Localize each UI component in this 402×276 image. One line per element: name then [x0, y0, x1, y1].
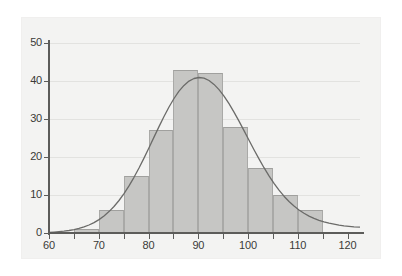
y-tick-label-10-wrap: 10 [22, 189, 42, 200]
x-tick-label-60: 60 [34, 240, 64, 251]
normal-density-curve [49, 35, 360, 237]
y-tick-label-30: 30 [30, 113, 42, 124]
x-tick-label-100: 100 [233, 240, 263, 251]
x-tick-label-120: 120 [333, 240, 363, 251]
y-tick-label-40-wrap: 40 [22, 75, 42, 86]
x-tick-mark-75 [124, 234, 125, 239]
x-tick-mark-115 [323, 234, 324, 239]
y-tick-label-50: 50 [30, 37, 42, 48]
y-tick-label-0-wrap: 0 [22, 227, 42, 238]
histogram-figure: 50 40 30 20 10 0 [0, 0, 402, 276]
y-axis-line [48, 40, 50, 235]
y-tick-label-0: 0 [36, 227, 42, 238]
x-tick-mark-65 [74, 234, 75, 239]
y-tick-label-40: 40 [30, 75, 42, 86]
x-axis-line [48, 232, 364, 234]
y-tick-label-20: 20 [30, 151, 42, 162]
x-tick-label-110: 110 [283, 240, 313, 251]
y-tick-label-20-wrap: 20 [22, 151, 42, 162]
x-tick-mark-85 [173, 234, 174, 239]
x-tick-label-70: 70 [84, 240, 114, 251]
y-tick-label-10: 10 [30, 189, 42, 200]
x-tick-label-90: 90 [183, 240, 213, 251]
x-tick-label-80: 80 [134, 240, 164, 251]
x-tick-mark-95 [223, 234, 224, 239]
y-tick-label-50-wrap: 50 [22, 37, 42, 48]
x-tick-mark-105 [273, 234, 274, 239]
plot-area [49, 43, 360, 233]
y-tick-label-30-wrap: 30 [22, 113, 42, 124]
